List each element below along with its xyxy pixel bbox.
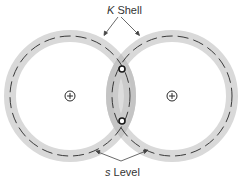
k-shell-arrows bbox=[104, 17, 140, 36]
left-nucleus bbox=[65, 91, 75, 101]
lower-electron-icon bbox=[119, 118, 125, 124]
overlap-region bbox=[10, 36, 232, 156]
s-level-label: s Level bbox=[105, 166, 140, 178]
s-level-annotation: s Level bbox=[96, 150, 148, 178]
right-nucleus bbox=[167, 91, 177, 101]
covalent-bond-diagram: K Shell s Level bbox=[0, 0, 241, 182]
upper-electron-icon bbox=[119, 66, 125, 72]
k-shell-annotation: K Shell bbox=[104, 4, 142, 36]
k-shell-label: K Shell bbox=[107, 4, 142, 16]
